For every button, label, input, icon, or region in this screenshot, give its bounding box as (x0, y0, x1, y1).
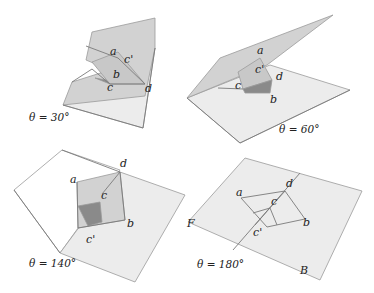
vertex-label: b (270, 93, 277, 106)
vertex-label: d (286, 177, 293, 190)
angle-caption: θ = 60° (279, 123, 319, 135)
vertex-label: b (303, 216, 310, 229)
vertex-label: c (107, 81, 113, 94)
vertex-label: a (257, 44, 264, 57)
vertex-label: F (186, 217, 195, 230)
panel-theta140: adcbc'θ = 140° (14, 150, 185, 282)
angle-caption: θ = 30° (29, 111, 69, 123)
vertex-label: c' (255, 63, 264, 76)
vertex-label: c' (86, 233, 95, 246)
panel-theta60: ac'dcbθ = 60° (187, 15, 350, 143)
vertex-label: B (299, 264, 308, 277)
vertex-label: d (120, 157, 127, 170)
vertex-label: d (276, 70, 283, 83)
vertex-label: a (70, 173, 77, 186)
panel-theta180: adcbc'FBθ = 180° (186, 158, 362, 280)
vertex-label: c' (253, 226, 262, 239)
vertex-label: a (236, 186, 243, 199)
vertex-label: c (235, 79, 241, 92)
vertex-label: a (110, 45, 117, 58)
folding-diagram: ac'bcdθ = 30°ac'dcbθ = 60°adcbc'θ = 140°… (0, 0, 374, 293)
panel-theta30: ac'bcdθ = 30° (29, 18, 155, 128)
vertex-label: d (145, 82, 152, 95)
vertex-label: c (101, 189, 107, 202)
angle-caption: θ = 180° (197, 258, 244, 270)
vertex-label: b (127, 217, 134, 230)
vertex-label: b (113, 68, 120, 81)
diagram-canvas: ac'bcdθ = 30°ac'dcbθ = 60°adcbc'θ = 140°… (0, 0, 374, 293)
angle-caption: θ = 140° (29, 257, 76, 269)
vertex-label: c (271, 195, 277, 208)
vertex-label: c' (124, 53, 133, 66)
